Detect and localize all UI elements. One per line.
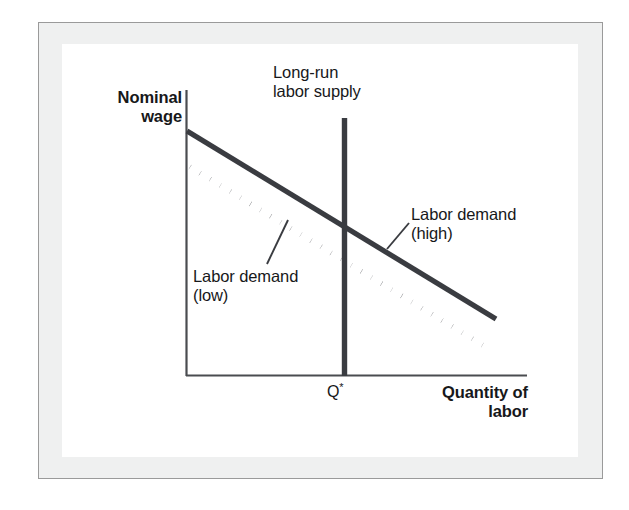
y-axis-label: Nominal wage [60,88,182,126]
x-axis-label: Quantity of labor [400,383,528,421]
long-run-labor-supply-label: Long-run labor supply [273,63,433,101]
labor-demand-low-label: Labor demand (low) [193,267,353,305]
labor-demand-low-line [190,167,489,349]
figure-page: Nominal wage Long-run labor supply Labor… [0,0,629,510]
equilibrium-quantity-star: * [339,381,343,393]
equilibrium-quantity-letter: Q [327,383,339,400]
labor-demand-high-leader-line [387,223,409,249]
labor-demand-low-leader-line [267,220,288,264]
labor-demand-high-label: Labor demand (high) [411,205,561,243]
equilibrium-quantity-label: Q* [327,381,367,402]
